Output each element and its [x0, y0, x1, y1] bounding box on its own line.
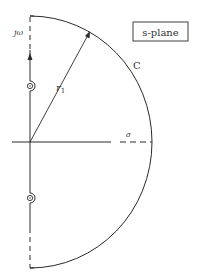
lower-pole-dot — [29, 197, 30, 198]
s-plane-label: s-plane — [142, 27, 179, 38]
radius-label: r1 — [56, 82, 65, 95]
radius-arrow-icon — [85, 31, 90, 39]
up-arrow-icon — [28, 53, 33, 60]
upper-pole-dot — [29, 85, 30, 86]
real-axis-label: σ — [126, 131, 131, 139]
contour-label: C — [133, 60, 141, 71]
imag-axis-label: jω — [12, 28, 23, 37]
nyquist-contour-diagram: s-plane C r1 jω σ — [0, 0, 199, 280]
